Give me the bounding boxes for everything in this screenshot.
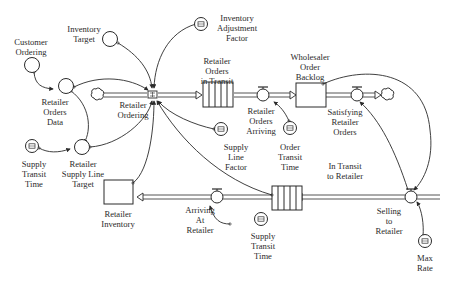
stock-retailer-inventory[interactable] <box>104 180 133 204</box>
const-supply-transit-time-2[interactable] <box>255 213 268 226</box>
arrowhead-icon <box>375 91 381 99</box>
stock-in-transit-to-retailer[interactable] <box>272 186 302 210</box>
label-retailer-ordering: Retailer Ordering <box>117 100 148 120</box>
label-in-transit-to-retailer: In Transit to Retailer <box>327 161 363 181</box>
label-supply-line-factor: Supply Line Factor <box>224 142 248 172</box>
const-max-rate[interactable] <box>419 235 432 248</box>
aux-retailer-supply-line-target[interactable] <box>75 140 90 155</box>
label-retailer-orders-data: Retailer Orders Data <box>41 97 68 127</box>
aux-inventory-target[interactable] <box>103 32 118 47</box>
label-arriving-at-retailer: Arriving At Retailer <box>185 205 215 235</box>
valve-selling-to-retailer[interactable] <box>405 189 417 203</box>
const-supply-transit-time-1[interactable] <box>26 140 39 153</box>
label-retailer-inventory: Retailer Inventory <box>101 209 134 229</box>
valve-retailer-orders-arriving[interactable] <box>257 87 269 101</box>
const-inventory-adjustment-factor[interactable] <box>195 18 208 31</box>
valve-satisfying-retailer-orders[interactable] <box>351 87 363 101</box>
aux-retailer-orders-data[interactable] <box>59 79 74 94</box>
arrowhead-icon <box>137 193 143 201</box>
label-supply-transit-time-1: Supply Transit Time <box>22 159 46 189</box>
const-order-transit-time[interactable] <box>284 122 297 135</box>
valve-arriving-at-retailer[interactable] <box>211 189 223 203</box>
label-selling-to-retailer: Selling to Retailer <box>375 206 402 236</box>
stock-wholesaler-order-backlog[interactable] <box>296 83 326 107</box>
label-retailer-supply-line-target: Retailer Supply Line Target <box>62 159 104 189</box>
valve-retailer-ordering[interactable] <box>148 91 157 98</box>
aux-customer-ordering[interactable] <box>25 58 40 73</box>
source-cloud-icon <box>91 88 104 100</box>
sink-cloud-icon <box>381 88 394 100</box>
label-supply-transit-time-2: Supply Transit Time <box>251 231 275 261</box>
label-satisfying-retailer-orders: Satisfying Retailer Orders <box>328 107 363 137</box>
label-order-transit-time: Order Transit Time <box>278 142 302 172</box>
label-retailer-orders-arriving: Retailer Orders Arriving <box>246 106 276 136</box>
label-inventory-adjustment-factor: Inventory Adjustment Factor <box>217 13 257 43</box>
label-max-rate: Max Rate <box>417 253 433 273</box>
label-customer-ordering: Customer Ordering <box>14 37 47 57</box>
label-retailer-orders-in-transit: Retailer Orders in Transit <box>201 56 234 86</box>
arrowhead-icon <box>196 91 202 99</box>
label-wholesaler-order-backlog: Wholesaler Order Backlog <box>290 52 329 82</box>
arrowhead-icon <box>290 91 296 99</box>
label-inventory-target: Inventory Target <box>67 24 100 44</box>
const-supply-line-factor[interactable] <box>215 123 228 136</box>
